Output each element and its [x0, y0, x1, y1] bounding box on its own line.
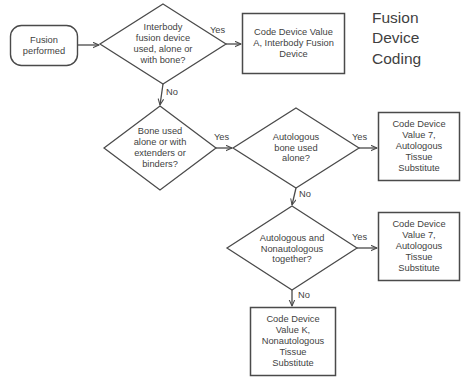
- edge-label-autologous-both-no: No: [298, 291, 310, 300]
- decision-interbody-node[interactable]: [100, 4, 226, 84]
- decision-autologous-alone-node[interactable]: [233, 108, 359, 188]
- edge-label-interbody-no: No: [166, 88, 178, 97]
- result-autologous-2-node[interactable]: [378, 212, 460, 281]
- decision-autologous-both-node[interactable]: [227, 206, 357, 290]
- edge-autologous-alone-no: [292, 188, 296, 205]
- result-autologous-1-node[interactable]: [378, 112, 460, 181]
- page-title: Fusion Device Coding: [372, 8, 460, 69]
- fusion-device-coding-flowchart: Fusion performed Interbody fusion device…: [0, 0, 463, 382]
- edge-interbody-no: [160, 84, 163, 105]
- start-node[interactable]: [10, 25, 78, 66]
- edge-label-bone-yes: Yes: [214, 133, 229, 142]
- result-interbody-node[interactable]: [242, 13, 345, 74]
- result-nonautologous-node[interactable]: [250, 307, 336, 376]
- edge-label-autologous-alone-no: No: [299, 190, 311, 199]
- decision-bone-node[interactable]: [104, 106, 216, 190]
